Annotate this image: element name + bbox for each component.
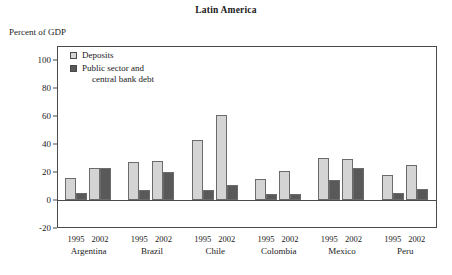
- y-axis-tick-100: 100: [25, 55, 51, 65]
- bar-colombia-2002-deposits: [279, 171, 290, 200]
- bar-peru-2002-deposits: [406, 165, 417, 200]
- y-axis-label: Percent of GDP: [9, 27, 66, 37]
- y-tick-mark: [53, 144, 57, 145]
- bar-argentina-1995-debt: [76, 193, 87, 200]
- bar-mexico-2002-deposits: [342, 159, 353, 200]
- y-axis-tick-20: 20: [25, 167, 51, 177]
- x-axis-year-colombia-2002: 2002: [275, 234, 305, 244]
- legend-swatch-debt: [70, 65, 77, 72]
- bar-argentina-2002-deposits: [89, 168, 100, 200]
- bar-argentina-1995-deposits: [65, 178, 76, 200]
- bar-peru-1995-deposits: [382, 175, 393, 200]
- bar-brazil-1995-deposits: [128, 162, 139, 200]
- chart-title: Latin America: [0, 5, 452, 15]
- legend-label-deposits: Deposits: [82, 50, 114, 61]
- y-axis-tick--20: -20: [25, 223, 51, 233]
- y-axis-tick-80: 80: [25, 83, 51, 93]
- legend-swatch-deposits: [70, 52, 77, 59]
- y-axis-tick-60: 60: [25, 111, 51, 121]
- zero-baseline: [57, 200, 437, 201]
- y-tick-mark: [53, 172, 57, 173]
- bar-mexico-1995-deposits: [318, 158, 329, 200]
- bar-argentina-2002-debt: [100, 168, 111, 200]
- bar-chile-1995-debt: [203, 190, 214, 200]
- bar-brazil-2002-deposits: [152, 161, 163, 200]
- x-axis-year-brazil-2002: 2002: [148, 234, 178, 244]
- x-axis-year-mexico-2002: 2002: [338, 234, 368, 244]
- x-axis-country-peru: Peru: [365, 246, 445, 256]
- x-axis-year-peru-2002: 2002: [402, 234, 432, 244]
- chart-figure: Latin America Percent of GDP -2002040608…: [0, 0, 452, 275]
- y-tick-mark: [53, 228, 57, 229]
- bar-brazil-2002-debt: [163, 172, 174, 200]
- bar-peru-2002-debt: [417, 189, 428, 200]
- legend-item-deposits: Deposits: [70, 50, 154, 61]
- bar-mexico-1995-debt: [329, 180, 340, 200]
- legend-label-debt: Public sector andcentral bank debt: [82, 63, 154, 85]
- bar-chile-2002-debt: [227, 185, 238, 200]
- y-axis-tick-0: 0: [25, 195, 51, 205]
- x-axis-year-chile-2002: 2002: [212, 234, 242, 244]
- bar-peru-1995-debt: [393, 193, 404, 200]
- bar-brazil-1995-debt: [139, 190, 150, 200]
- chart-legend: Deposits Public sector andcentral bank d…: [70, 50, 154, 87]
- y-tick-mark: [53, 88, 57, 89]
- y-tick-mark: [53, 60, 57, 61]
- y-tick-mark: [53, 116, 57, 117]
- bar-chile-1995-deposits: [192, 140, 203, 200]
- x-axis-year-argentina-2002: 2002: [85, 234, 115, 244]
- bar-chile-2002-deposits: [216, 115, 227, 200]
- bar-mexico-2002-debt: [353, 168, 364, 200]
- legend-item-debt: Public sector andcentral bank debt: [70, 63, 154, 85]
- y-axis-tick-40: 40: [25, 139, 51, 149]
- bar-colombia-1995-deposits: [255, 179, 266, 200]
